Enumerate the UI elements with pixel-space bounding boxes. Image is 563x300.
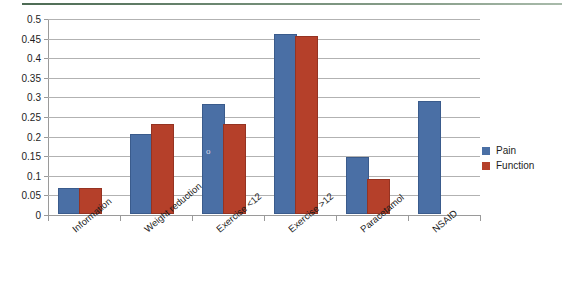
y-axis-tick-label: 0.5 <box>27 14 41 25</box>
legend-item-function: Function <box>482 158 534 173</box>
bar-group <box>408 18 480 214</box>
bar-pain <box>58 188 81 214</box>
bar-pain <box>418 101 441 214</box>
bar-pain <box>274 34 297 214</box>
top-divider-rule <box>22 3 562 5</box>
legend-label-pain: Pain <box>496 145 516 156</box>
chart-legend: Pain Function <box>482 143 534 173</box>
x-axis-tick-mark <box>48 215 49 221</box>
bar-function <box>295 36 318 214</box>
y-axis-tick-label: 0.05 <box>22 190 41 201</box>
x-axis-tick-mark <box>192 215 193 221</box>
x-axis-tick-mark <box>336 215 337 221</box>
legend-swatch-function <box>482 162 490 170</box>
bar-group <box>336 18 408 214</box>
y-axis-tick-label: 0.15 <box>22 151 41 162</box>
y-axis-tick-label: 0 <box>35 210 41 221</box>
x-axis-tick-mark <box>408 215 409 221</box>
y-axis-tick-label: 0.3 <box>27 92 41 103</box>
bar-pain <box>202 104 225 214</box>
bar-group: o <box>192 18 264 214</box>
y-axis-tick-label: 0.2 <box>27 131 41 142</box>
y-axis-tick-label: 0.35 <box>22 72 41 83</box>
plot-area: 00.050.10.150.20.250.30.350.40.450.5o <box>48 19 480 215</box>
bar-pain <box>130 134 153 214</box>
y-axis-tick-label: 0.45 <box>22 33 41 44</box>
y-axis-tick-label: 0.4 <box>27 53 41 64</box>
x-axis-tick-mark <box>264 215 265 221</box>
bar-chart: 00.050.10.150.20.250.30.350.40.450.5o Pa… <box>0 0 563 300</box>
x-axis-tick-mark <box>480 215 481 221</box>
bar-group <box>120 18 192 214</box>
x-axis-tick-mark <box>120 215 121 221</box>
bar-pain <box>346 157 369 214</box>
legend-item-pain: Pain <box>482 143 534 158</box>
bar-group <box>264 18 336 214</box>
y-axis-tick-label: 0.25 <box>22 112 41 123</box>
legend-label-function: Function <box>496 160 534 171</box>
bar-group <box>48 18 120 214</box>
y-axis-tick-label: 0.1 <box>27 170 41 181</box>
legend-swatch-pain <box>482 147 490 155</box>
